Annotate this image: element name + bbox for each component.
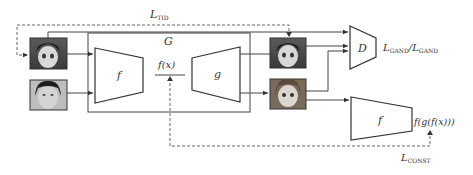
discriminator-loss-label: LGAND/LGAND bbox=[382, 42, 438, 54]
generator-label: G bbox=[164, 35, 173, 48]
translated-output-to-discriminator-arrow bbox=[306, 51, 348, 91]
decoder-g-label: g bbox=[214, 68, 221, 81]
const-loss-label: LCONST bbox=[400, 152, 431, 164]
input-anime-image bbox=[30, 38, 67, 69]
output-anime-translated-image bbox=[270, 79, 306, 109]
cycle-output-label: f(g(f(x))) bbox=[413, 116, 455, 127]
latent-label: f(x) bbox=[157, 59, 175, 70]
output-anime-identity-image bbox=[270, 38, 306, 68]
discriminator-label: D bbox=[357, 42, 367, 55]
input-photo-image bbox=[30, 80, 67, 110]
tid-loss-label: LTID bbox=[149, 8, 169, 21]
domain-transfer-network-diagram: LTID G f f(x) g bbox=[0, 0, 473, 175]
